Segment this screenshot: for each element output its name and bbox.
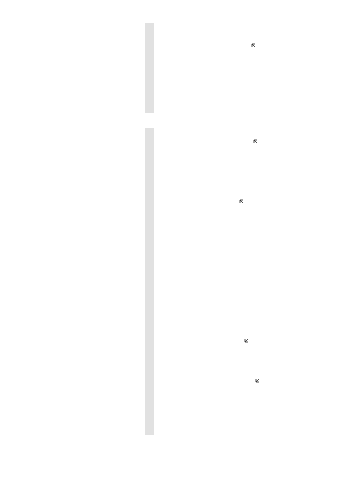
curve-labels	[240, 44, 259, 382]
label-alveolar-po2	[254, 140, 257, 143]
label-arterial-co2-content	[245, 339, 248, 342]
ventilation-chart	[0, 0, 350, 483]
label-arterial-o2-sat	[240, 200, 243, 203]
normal-ventilation-band	[145, 23, 154, 435]
label-arterial-ph	[252, 44, 255, 47]
label-alveolar-pco2	[256, 379, 259, 382]
